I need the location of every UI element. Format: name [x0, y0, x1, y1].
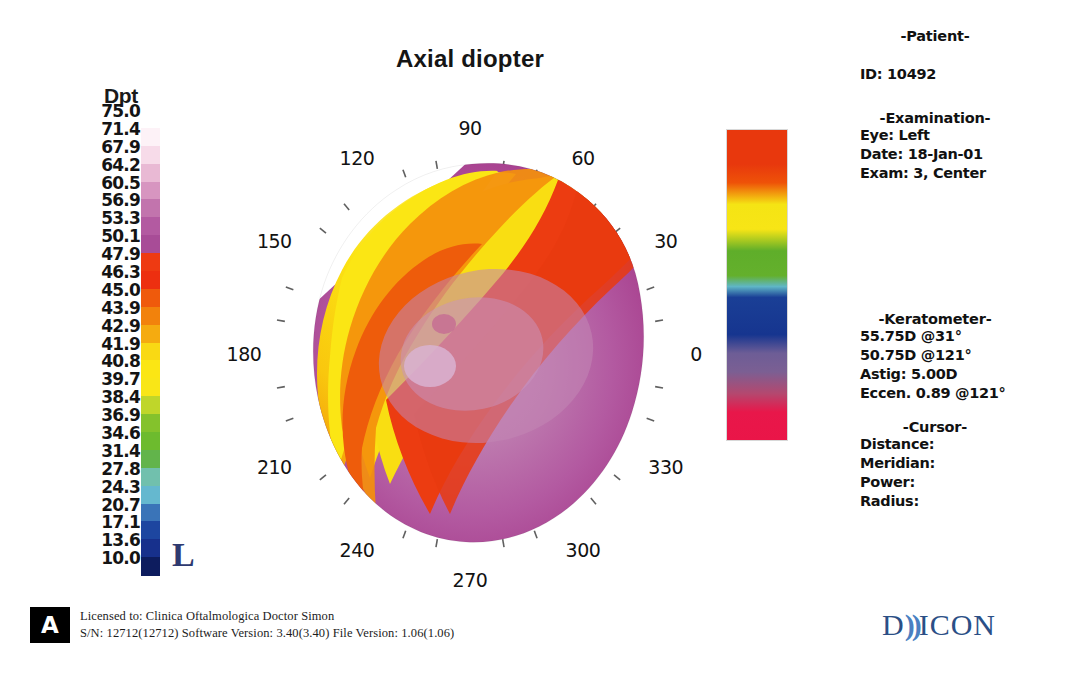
scale-color-swatch — [141, 396, 160, 415]
scale-color-swatch — [141, 539, 160, 558]
version-line: S/N: 12712(12712) Software Version: 3.40… — [80, 625, 640, 642]
patient-section-title: -Patient- — [860, 28, 1010, 44]
map-color-regions — [288, 158, 678, 548]
keratometer-section-title: -Keratometer- — [860, 311, 1010, 327]
scale-color-swatch — [141, 360, 160, 379]
exam-date: Date: 18-Jan-01 — [860, 145, 1060, 164]
scale-color-swatch — [141, 504, 160, 523]
angle-tick — [344, 498, 349, 504]
corneal-topography-map[interactable]: 0306090120150180210240270300330 — [258, 128, 678, 548]
scale-color-swatch — [141, 128, 160, 147]
logo-wave-icon: )) — [905, 608, 919, 641]
info-panel: -Patient- ID: 10492 -Examination- Eye: L… — [860, 28, 1060, 511]
scale-color-swatch — [141, 486, 160, 505]
logo-text-icon: ICON — [919, 608, 996, 641]
cursor-radius: Radius: — [860, 492, 1060, 511]
angle-label-60: 60 — [571, 147, 594, 169]
keratometer-astigmatism: Astig: 5.00D — [860, 365, 1060, 384]
angle-tick — [320, 475, 326, 480]
scale-color-swatch — [141, 468, 160, 487]
scale-color-swatch — [141, 378, 160, 397]
keratometer-k2: 50.75D @121° — [860, 346, 1060, 365]
angle-label-270: 270 — [453, 569, 488, 591]
logo-letter-d: D — [882, 608, 905, 641]
angle-label-30: 30 — [654, 230, 677, 252]
angle-tick — [277, 387, 285, 388]
angle-tick — [436, 539, 437, 547]
scale-color-swatch — [141, 325, 160, 344]
map-index-badge: A — [30, 607, 70, 643]
angle-tick — [655, 320, 663, 321]
scale-color-swatch — [141, 414, 160, 433]
cursor-distance: Distance: — [860, 435, 1060, 454]
keratometer-k1: 55.75D @31° — [860, 327, 1060, 346]
eye-side-marker: L — [172, 538, 195, 572]
scale-row: 10.0 — [88, 557, 168, 575]
footer-text: Licensed to: Clinica Oftalmologica Docto… — [80, 608, 640, 642]
patient-id: ID: 10492 — [860, 65, 1060, 84]
angle-tick — [344, 204, 349, 210]
scale-tick-label: 10.0 — [88, 548, 140, 568]
cursor-power: Power: — [860, 473, 1060, 492]
scale-color-swatch — [141, 557, 160, 576]
angle-tick — [320, 228, 326, 233]
scale-color-swatch — [141, 289, 160, 308]
cursor-meridian: Meridian: — [860, 454, 1060, 473]
angle-label-150: 150 — [257, 230, 292, 252]
angle-tick — [277, 320, 285, 321]
scale-color-swatch — [141, 271, 160, 290]
scale-color-swatch — [141, 199, 160, 218]
scale-color-swatch — [141, 182, 160, 201]
scale-color-swatch — [141, 235, 160, 254]
angle-tick — [647, 418, 655, 421]
page-title: Axial diopter — [0, 45, 940, 73]
scale-color-swatch — [141, 164, 160, 183]
scale-rows-container: 75.071.467.964.260.556.953.350.147.946.3… — [88, 110, 168, 576]
cursor-section-title: -Cursor- — [860, 419, 1010, 435]
angle-tick — [655, 387, 663, 388]
angle-tick — [503, 539, 504, 547]
angle-tick — [286, 287, 294, 290]
angle-label-300: 300 — [566, 539, 601, 561]
scale-color-swatch — [141, 450, 160, 469]
scale-color-swatch — [141, 432, 160, 451]
exam-number: Exam: 3, Center — [860, 164, 1060, 183]
scale-color-swatch — [141, 217, 160, 236]
dicon-logo: D))ICON — [882, 608, 996, 642]
angle-tick — [534, 531, 537, 539]
angle-label-210: 210 — [257, 456, 292, 478]
scale-color-swatch — [141, 343, 160, 362]
angle-tick — [286, 418, 294, 421]
angle-tick — [436, 161, 437, 169]
angle-label-0: 0 — [690, 343, 702, 365]
license-line: Licensed to: Clinica Oftalmologica Docto… — [80, 608, 640, 625]
angle-label-180: 180 — [227, 343, 262, 365]
scale-color-swatch — [141, 307, 160, 326]
exam-eye: Eye: Left — [860, 126, 1060, 145]
angle-label-330: 330 — [648, 456, 683, 478]
angle-label-90: 90 — [458, 117, 481, 139]
angle-label-120: 120 — [340, 147, 375, 169]
scale-color-swatch — [141, 521, 160, 540]
topography-heatmap-svg — [258, 128, 678, 548]
angle-tick — [614, 475, 620, 480]
scale-color-swatch — [141, 110, 160, 129]
keratometer-eccentricity: Eccen. 0.89 @121° — [860, 384, 1060, 403]
angle-tick — [403, 531, 406, 539]
angle-label-240: 240 — [340, 539, 375, 561]
angle-tick — [591, 498, 596, 504]
scale-color-swatch — [141, 146, 160, 165]
examination-section-title: -Examination- — [860, 110, 1010, 126]
scale-color-swatch — [141, 253, 160, 272]
angle-tick — [403, 170, 406, 178]
angle-tick — [647, 287, 655, 290]
diopter-scale-legend: Dpt 75.071.467.964.260.556.953.350.147.9… — [88, 84, 168, 576]
secondary-color-strip — [727, 130, 787, 440]
